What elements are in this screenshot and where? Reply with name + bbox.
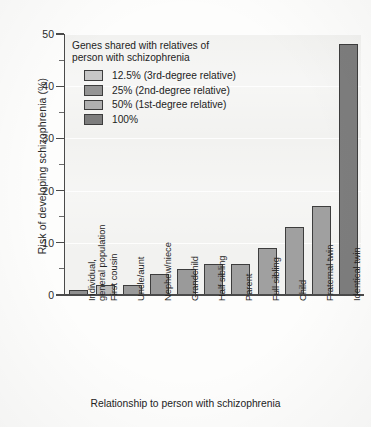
y-tick-label: 20 — [20, 185, 54, 197]
x-tick-label: Fraternal twin — [325, 245, 335, 301]
x-tick-label: Child — [298, 280, 308, 301]
y-tick-label: 40 — [20, 80, 54, 92]
legend-label: 50% (1st-degree relative) — [112, 99, 226, 110]
legend-entries: 12.5% (3rd-degree relative)25% (2nd-degr… — [72, 68, 292, 126]
x-tick-label: Half sibling — [217, 256, 227, 301]
legend-label: 12.5% (3rd-degree relative) — [112, 70, 236, 81]
x-tick-label: Full sibling — [271, 257, 281, 301]
y-tick-minor — [59, 268, 64, 269]
x-tick-label: Grandchild — [190, 256, 200, 301]
x-tick-label: Nephew/niece — [163, 242, 173, 301]
chart-figure: Risk of developing schizophrenia (%) 010… — [0, 0, 371, 427]
legend-label: 25% (2nd-degree relative) — [112, 85, 230, 96]
gridline — [65, 34, 361, 35]
y-tick-major — [56, 294, 64, 295]
y-tick-minor — [59, 216, 64, 217]
legend-swatch-icon — [84, 114, 103, 125]
x-tick-label: Uncle/aunt — [136, 257, 146, 301]
y-tick-major — [56, 242, 64, 243]
legend: Genes shared with relatives of person wi… — [72, 40, 292, 127]
y-tick-label: 50 — [20, 28, 54, 40]
legend-swatch-icon — [84, 70, 103, 81]
legend-swatch-icon — [84, 100, 103, 111]
y-tick-minor — [59, 60, 64, 61]
y-tick-major — [56, 190, 64, 191]
legend-label: 100% — [112, 114, 138, 125]
x-axis-title: Relationship to person with schizophreni… — [0, 398, 371, 409]
y-axis-tick-labels: 01020304050 — [16, 0, 54, 427]
x-tick-label: Identical twin — [352, 247, 362, 301]
x-tick-label-line: general population — [97, 215, 107, 301]
legend-entry: 100% — [72, 112, 292, 127]
y-tick-label: 0 — [20, 289, 54, 301]
legend-swatch-icon — [84, 85, 103, 96]
gridline — [65, 138, 361, 139]
legend-title-line-1: Genes shared with relatives of — [72, 40, 209, 51]
y-tick-major — [56, 33, 64, 34]
y-tick-major — [56, 138, 64, 139]
y-tick-label: 10 — [20, 237, 54, 249]
legend-entry: 25% (2nd-degree relative) — [72, 83, 292, 98]
y-tick-minor — [59, 112, 64, 113]
x-tick-label: Individual,general population — [87, 215, 108, 301]
x-tick-label: Parent — [244, 274, 254, 301]
gridline — [65, 191, 361, 192]
y-tick-label: 30 — [20, 132, 54, 144]
legend-entry: 12.5% (3rd-degree relative) — [72, 68, 292, 83]
y-tick-minor — [59, 164, 64, 165]
legend-title: Genes shared with relatives of person wi… — [72, 40, 257, 64]
legend-title-line-2: person with schizophrenia — [72, 52, 190, 63]
y-tick-major — [56, 86, 64, 87]
x-tick-label: First cousin — [109, 253, 119, 301]
x-tick-label-line: Individual, — [87, 215, 97, 301]
legend-entry: 50% (1st-degree relative) — [72, 98, 292, 113]
